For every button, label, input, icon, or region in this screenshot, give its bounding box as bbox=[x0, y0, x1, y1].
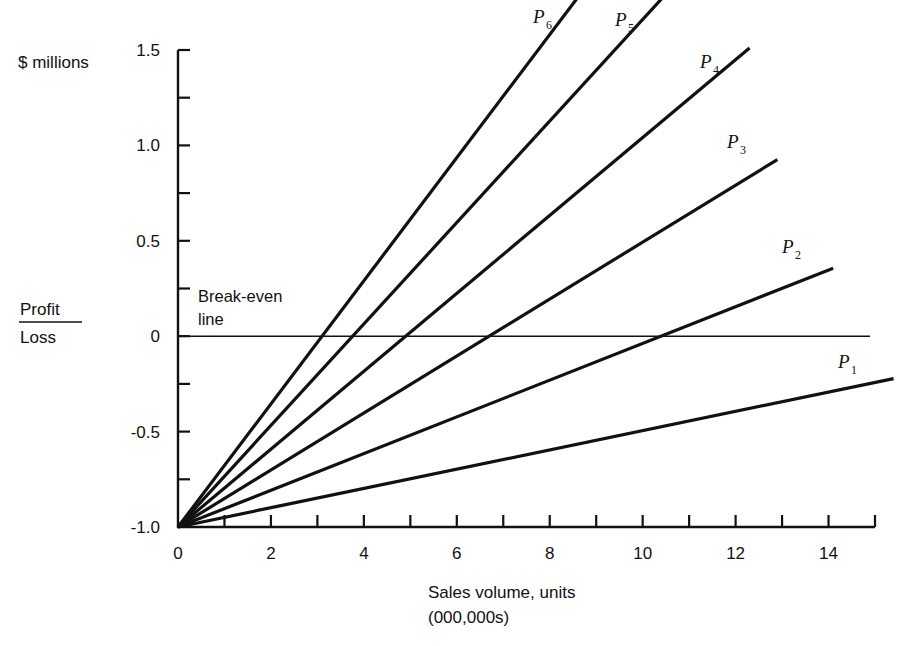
series-label-P1: P1 bbox=[837, 351, 857, 377]
y-axis-fraction-numerator: Profit bbox=[20, 300, 60, 319]
break-even-annotation-line1: Break-even bbox=[198, 287, 282, 305]
series-line-P6 bbox=[178, 0, 589, 527]
axis-ticks bbox=[178, 98, 829, 527]
x-axis-title: Sales volume, units (000,000s) bbox=[428, 583, 575, 627]
x-tick-label: 2 bbox=[266, 544, 275, 563]
series-lines bbox=[178, 0, 894, 527]
x-axis-tick-labels: 02468101214 bbox=[173, 544, 838, 563]
break-even-annotation: Break-even line bbox=[198, 287, 282, 328]
y-tick-label: 1.5 bbox=[136, 41, 160, 60]
y-axis-unit-label: $ millions bbox=[18, 53, 89, 72]
series-label-P3: P3 bbox=[726, 131, 746, 157]
profit-loss-break-even-chart: 02468101214 1.51.00.50-0.5-1.0 P1P2P3P4P… bbox=[0, 0, 903, 646]
y-tick-label: 0 bbox=[151, 327, 160, 346]
series-label-P6: P6 bbox=[532, 6, 552, 32]
break-even-annotation-line2: line bbox=[198, 310, 224, 328]
series-line-P3 bbox=[178, 160, 777, 527]
x-tick-label: 12 bbox=[726, 544, 745, 563]
x-axis-title-line1: Sales volume, units bbox=[428, 583, 575, 602]
x-tick-label: 14 bbox=[819, 544, 838, 563]
y-tick-label: 0.5 bbox=[136, 232, 160, 251]
y-axis-fraction-denominator: Loss bbox=[20, 328, 56, 347]
x-tick-label: 10 bbox=[633, 544, 652, 563]
x-tick-label: 8 bbox=[545, 544, 554, 563]
y-tick-label: -1.0 bbox=[131, 518, 160, 537]
x-tick-label: 4 bbox=[359, 544, 368, 563]
series-line-P1 bbox=[178, 379, 894, 527]
x-tick-label: 6 bbox=[452, 544, 461, 563]
series-label-P4: P4 bbox=[699, 51, 719, 77]
series-label-P2: P2 bbox=[781, 236, 801, 262]
y-tick-label: 1.0 bbox=[136, 136, 160, 155]
y-axis-fraction-label: Profit Loss bbox=[19, 300, 82, 347]
chart-container: 02468101214 1.51.00.50-0.5-1.0 P1P2P3P4P… bbox=[0, 0, 903, 646]
series-line-P5 bbox=[178, 0, 675, 527]
series-label-P5: P5 bbox=[614, 9, 634, 35]
y-tick-label: -0.5 bbox=[131, 423, 160, 442]
x-axis-title-line2: (000,000s) bbox=[428, 608, 509, 627]
x-tick-label: 0 bbox=[173, 544, 182, 563]
y-axis-tick-labels: 1.51.00.50-0.5-1.0 bbox=[131, 41, 160, 537]
